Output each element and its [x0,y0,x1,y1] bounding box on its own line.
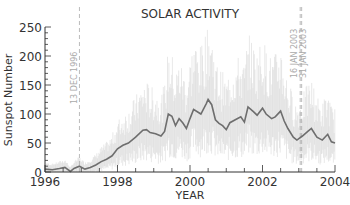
x-axis-label: YEAR [175,189,205,202]
y-axis-label: Sunspot Number [2,53,15,146]
y-tick-label: 150 [19,79,42,93]
y-tick-label: 250 [19,21,42,35]
event-marker-label: 13 DEC 1996 [70,52,79,104]
event-marker-label: 31 JAN 2003 [299,29,308,78]
x-tick-label: 2002 [247,175,278,189]
x-tick-label: 1996 [30,175,61,189]
x-tick-label: 2004 [320,175,350,189]
chart-title: SOLAR ACTIVITY [141,7,240,21]
y-tick-label: 100 [19,108,42,122]
x-tick-label: 2000 [175,175,206,189]
y-tick-label: 50 [27,137,42,151]
x-tick-label: 1998 [102,175,133,189]
y-tick-label: 200 [19,50,42,64]
solar-activity-chart: SOLAR ACTIVITY Sunspot Number YEAR 13 DE… [0,0,350,205]
